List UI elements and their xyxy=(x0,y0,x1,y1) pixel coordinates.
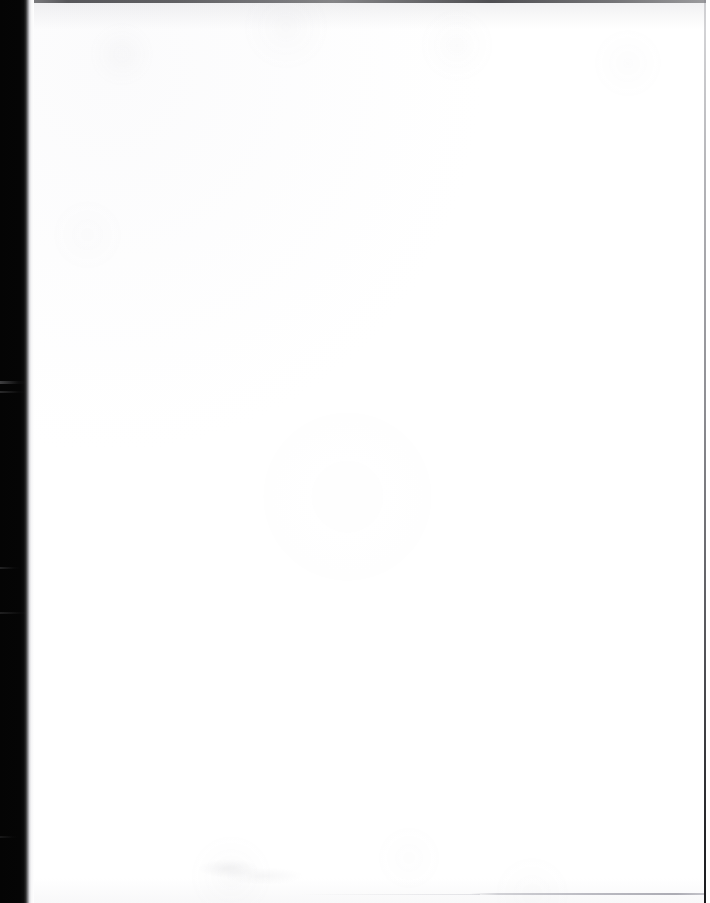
bottom-faint-rule xyxy=(470,893,704,895)
bottom-faint-rule-extension xyxy=(300,894,480,895)
scanned-page-canvas xyxy=(0,0,710,903)
scanner-gutter-shadow xyxy=(0,0,34,903)
paper-surface xyxy=(26,0,710,903)
right-outer-margin xyxy=(706,0,710,903)
page-top-edge-line xyxy=(26,0,710,3)
